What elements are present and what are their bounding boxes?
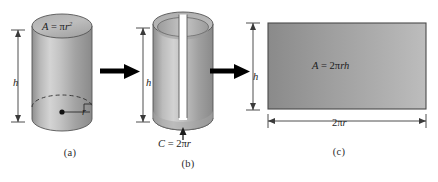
radius-label-a: r (82, 107, 86, 117)
height-label-b: h (146, 78, 151, 89)
panel-c-unrolled-rectangle: h A = 2πrh 2πr (c) (240, 0, 438, 182)
width-label-c: 2πr (332, 118, 347, 129)
cylinder-slit-b (179, 15, 187, 121)
caption-c: (c) (240, 146, 438, 157)
panel-b-slit-cylinder: h C = 2πr (b) (133, 0, 243, 182)
circumference-label: C = 2πr (158, 139, 191, 150)
height-label-c: h (253, 72, 258, 83)
center-point-dot-icon (59, 109, 64, 114)
panel-a-closed-cylinder: A = πr2 h r (a) (0, 0, 140, 182)
cylinder-body-b (153, 12, 213, 130)
height-dimension-b (136, 28, 150, 122)
height-dimension-a (11, 30, 25, 122)
panel-b-graphics (133, 0, 243, 182)
cylinder-surface-area-figure: A = πr2 h r (a) (0, 0, 438, 182)
height-label-a: h (13, 78, 18, 89)
caption-a: (a) (0, 147, 140, 158)
area-label-circle: A = πr2 (42, 22, 72, 33)
height-dimension-c (246, 23, 260, 110)
area-label-rectangle: A = 2πrh (312, 61, 349, 72)
caption-b: (b) (133, 158, 243, 169)
width-dimension-c (268, 114, 426, 128)
